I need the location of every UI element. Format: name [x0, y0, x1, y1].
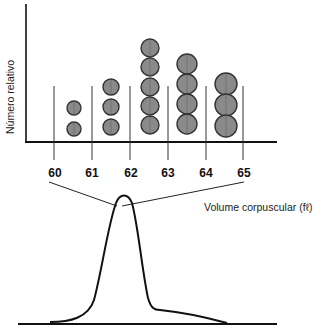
tick-62: 62	[124, 166, 138, 180]
distribution-curve	[50, 196, 227, 324]
tick-64: 64	[199, 166, 213, 180]
tick-61: 61	[85, 166, 99, 180]
x-axis-label: Volume corpuscular (fℓ)	[204, 201, 312, 213]
x-tick-labels: 60 61 62 63 64 65	[48, 166, 251, 180]
tick-63: 63	[161, 166, 175, 180]
circle-texture	[74, 40, 226, 136]
y-axis-label: Número relativo	[4, 60, 16, 134]
tick-60: 60	[48, 166, 62, 180]
rbc-volume-diagram: Número relativo	[0, 0, 323, 333]
tick-65: 65	[237, 166, 251, 180]
